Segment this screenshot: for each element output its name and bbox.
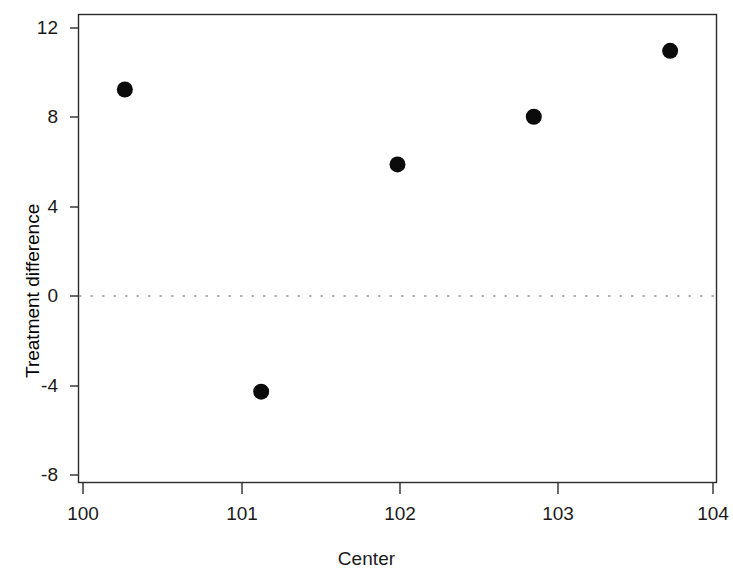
x-axis-title: Center [0, 548, 733, 570]
data-point [526, 109, 542, 125]
data-point-group [117, 43, 678, 400]
data-point [117, 81, 133, 97]
x-tick-label-103: 103 [542, 503, 574, 525]
x-tick-label-104: 104 [697, 503, 729, 525]
x-tick-label-101: 101 [226, 503, 258, 525]
y-tick-label-neg4: -4 [18, 375, 58, 397]
x-tick-label-102: 102 [384, 503, 416, 525]
plot-frame [79, 15, 717, 483]
data-point [390, 156, 406, 172]
y-axis-tick-marks [70, 28, 78, 475]
y-tick-label-neg8: -8 [18, 464, 58, 486]
scatter-plot-figure: 12 8 4 0 -4 -8 100 101 102 103 104 Treat… [0, 0, 733, 579]
y-axis-title: Treatment difference [22, 204, 44, 378]
x-tick-label-100: 100 [67, 503, 99, 525]
y-tick-label-12: 12 [18, 17, 58, 39]
data-point [253, 384, 269, 400]
data-point [662, 43, 678, 59]
plot-canvas [0, 0, 733, 579]
y-tick-label-8: 8 [18, 106, 58, 128]
x-axis-tick-marks [83, 483, 713, 494]
